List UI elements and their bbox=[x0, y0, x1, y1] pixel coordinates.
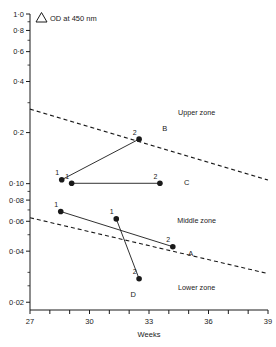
y-tick-label: 0·08 bbox=[9, 196, 24, 205]
x-tick-label: 33 bbox=[145, 317, 153, 326]
y-tick-label: 0·8 bbox=[13, 26, 24, 35]
y-tick-label: 0·2 bbox=[13, 128, 24, 137]
x-axis-label: Weeks bbox=[138, 330, 161, 339]
y-tick-label: 0·4 bbox=[13, 77, 24, 86]
data-point-B-1 bbox=[59, 177, 65, 183]
y-tick-label: 1·0 bbox=[13, 10, 24, 19]
series-line-B bbox=[62, 139, 139, 180]
series-label-C: C bbox=[184, 178, 190, 187]
point-label: 1 bbox=[55, 169, 59, 176]
series-label-D: D bbox=[130, 290, 136, 299]
data-point-D-2 bbox=[136, 276, 142, 282]
point-label: 2 bbox=[153, 173, 157, 180]
od-weeks-scatter-chart: 1·00·80·60·40·20·100·080·060·040·0227303… bbox=[0, 0, 276, 347]
chart-title: OD at 450 nm bbox=[50, 14, 97, 23]
series-label-A: A bbox=[188, 249, 193, 258]
x-tick-label: 36 bbox=[204, 317, 212, 326]
data-point-C-2 bbox=[157, 180, 163, 186]
zone-label: Lower zone bbox=[178, 283, 215, 292]
upper-boundary bbox=[30, 109, 268, 180]
data-point-C-1 bbox=[69, 180, 75, 186]
y-tick-label: 0·04 bbox=[9, 247, 24, 256]
point-label: 1 bbox=[110, 208, 114, 215]
y-tick-label: 0·02 bbox=[9, 298, 24, 307]
zone-label: Middle zone bbox=[177, 216, 216, 225]
point-label: 1 bbox=[65, 173, 69, 180]
zone-label: Upper zone bbox=[178, 108, 215, 117]
y-tick-label: 0·10 bbox=[9, 179, 24, 188]
data-point-D-1 bbox=[113, 216, 119, 222]
lower-boundary bbox=[30, 218, 268, 274]
point-label: 2 bbox=[133, 129, 137, 136]
point-label: 1 bbox=[54, 201, 58, 208]
y-tick-label: 0·06 bbox=[9, 217, 24, 226]
data-point-A-1 bbox=[58, 209, 64, 215]
series-label-B: B bbox=[162, 124, 167, 133]
x-tick-label: 27 bbox=[26, 317, 34, 326]
delta-icon bbox=[36, 13, 47, 23]
point-label: 2 bbox=[166, 236, 170, 243]
data-point-A-2 bbox=[170, 244, 176, 250]
x-tick-label: 39 bbox=[264, 317, 272, 326]
y-tick-label: 0·6 bbox=[13, 47, 24, 56]
x-tick-label: 30 bbox=[85, 317, 93, 326]
chart-canvas: 1·00·80·60·40·20·100·080·060·040·0227303… bbox=[0, 0, 276, 347]
data-point-B-2 bbox=[136, 136, 142, 142]
point-label: 2 bbox=[133, 268, 137, 275]
